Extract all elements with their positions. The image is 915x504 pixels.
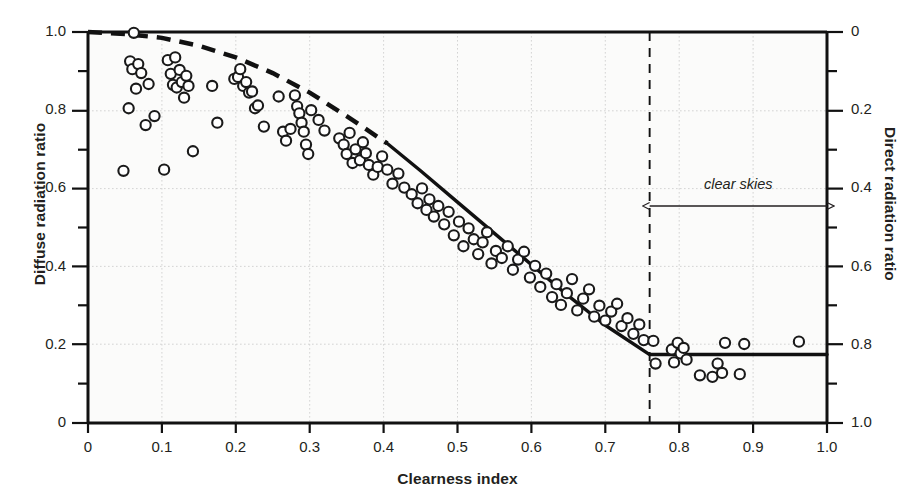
data-point <box>212 118 222 128</box>
data-point <box>567 274 577 284</box>
data-point <box>247 86 257 96</box>
data-point <box>306 105 316 115</box>
data-point <box>183 81 193 91</box>
data-point <box>503 241 513 251</box>
x-tick-0.7: 0.7 <box>575 438 635 455</box>
x-tick-0.1: 0.1 <box>132 438 192 455</box>
data-point <box>439 219 449 229</box>
data-point <box>141 120 151 130</box>
data-point <box>508 265 518 275</box>
data-point <box>634 319 644 329</box>
data-point <box>274 91 284 101</box>
data-point <box>188 146 198 156</box>
data-point <box>556 300 566 310</box>
chart-figure: Diffuse radiation ratio Direct radiation… <box>0 0 915 504</box>
data-point <box>463 223 473 233</box>
data-point <box>473 249 483 259</box>
data-point <box>290 90 300 100</box>
x-tick-0.2: 0.2 <box>206 438 266 455</box>
data-point <box>739 339 749 349</box>
data-point <box>572 305 582 315</box>
data-point <box>241 77 251 87</box>
data-point <box>144 79 154 89</box>
y-right-tick-0.8: 0.8 <box>851 335 911 352</box>
y-left-tick-0.2: 0.2 <box>8 335 66 352</box>
data-point <box>285 124 295 134</box>
data-point <box>679 343 689 353</box>
data-point <box>118 166 128 176</box>
data-point <box>179 93 189 103</box>
data-point <box>669 357 679 367</box>
data-point <box>159 165 169 175</box>
data-point <box>377 151 387 161</box>
data-point <box>628 329 638 339</box>
data-point <box>181 71 191 81</box>
data-point <box>530 261 540 271</box>
data-point <box>562 288 572 298</box>
data-point <box>695 370 705 380</box>
data-point <box>361 148 371 158</box>
x-tick-0: 0 <box>58 438 118 455</box>
y-right-tick-0.6: 0.6 <box>851 257 911 274</box>
data-point <box>458 241 468 251</box>
data-point <box>358 137 368 147</box>
y-left-tick-1.0: 1.0 <box>8 22 66 39</box>
y-right-tick-0.4: 0.4 <box>851 178 911 195</box>
y-left-tick-0.4: 0.4 <box>8 257 66 274</box>
data-point <box>547 292 557 302</box>
data-point <box>259 122 269 132</box>
data-point <box>735 369 745 379</box>
data-point <box>578 294 588 304</box>
data-point <box>681 355 691 365</box>
x-tick-0.8: 0.8 <box>649 438 709 455</box>
data-point <box>129 28 139 38</box>
y-left-tick-0.6: 0.6 <box>8 178 66 195</box>
y-right-tick-1.0: 1.0 <box>851 413 911 430</box>
data-point <box>170 52 180 62</box>
data-point <box>433 201 443 211</box>
x-tick-0.3: 0.3 <box>280 438 340 455</box>
data-point <box>535 282 545 292</box>
data-point <box>650 358 660 368</box>
data-point <box>136 68 146 78</box>
data-point <box>622 313 632 323</box>
data-point <box>444 207 454 217</box>
data-point <box>497 253 507 263</box>
data-point <box>429 211 439 221</box>
clear-skies-annotation: clear skies <box>610 176 867 192</box>
data-point <box>303 149 313 159</box>
x-tick-0.6: 0.6 <box>501 438 561 455</box>
data-point <box>149 111 159 121</box>
data-point <box>551 279 561 289</box>
data-point <box>131 84 141 94</box>
y-axis-left-title: Diffuse radiation ratio <box>31 104 49 304</box>
y-right-tick-0: 0 <box>851 22 911 39</box>
data-point <box>519 247 529 257</box>
data-point <box>124 103 134 113</box>
y-axis-right-ticks <box>827 32 843 423</box>
y-right-tick-0.2: 0.2 <box>851 100 911 117</box>
data-point <box>584 284 594 294</box>
data-point <box>541 269 551 279</box>
data-point <box>313 115 323 125</box>
data-point <box>486 258 496 268</box>
data-point <box>717 368 727 378</box>
data-point <box>794 337 804 347</box>
data-point <box>253 100 263 110</box>
data-point <box>454 217 464 227</box>
data-point <box>299 127 309 137</box>
x-tick-0.5: 0.5 <box>428 438 488 455</box>
data-point <box>594 301 604 311</box>
x-axis-title: Clearness index <box>0 470 915 488</box>
y-axis-right-title: Direct radiation ratio <box>881 104 899 304</box>
data-point <box>345 128 355 138</box>
data-point <box>648 336 658 346</box>
data-point <box>525 272 535 282</box>
x-tick-0.4: 0.4 <box>354 438 414 455</box>
data-point <box>281 136 291 146</box>
data-point <box>449 230 459 240</box>
data-point <box>720 338 730 348</box>
y-left-tick-0.8: 0.8 <box>8 100 66 117</box>
data-point <box>319 125 329 135</box>
data-point <box>478 237 488 247</box>
